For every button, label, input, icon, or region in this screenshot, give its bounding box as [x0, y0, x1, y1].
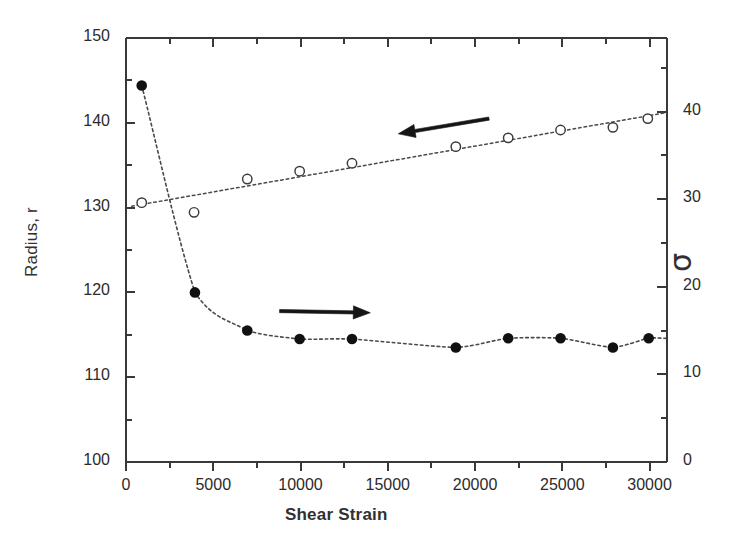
data-point-sigma: [608, 123, 617, 132]
x-axis-title: Shear Strain: [285, 505, 388, 525]
y-tick-label-right: 30: [683, 188, 731, 206]
y-tick-label-left: 130: [50, 197, 110, 215]
data-point-sigma: [451, 142, 460, 151]
data-point-sigma: [189, 208, 198, 217]
trend-line-radius: [142, 85, 666, 347]
axis-ticks: [126, 38, 667, 471]
data-point-radius: [608, 342, 619, 353]
x-tick-label: 5000: [173, 476, 253, 494]
y-tick-label-right: 20: [683, 276, 731, 294]
x-tick-label: 0: [86, 476, 166, 494]
data-point-radius: [451, 342, 462, 353]
x-tick-label: 10000: [261, 476, 341, 494]
x-tick-label: 20000: [435, 476, 515, 494]
y-tick-label-right: 0: [683, 451, 731, 469]
data-point-radius: [643, 333, 654, 344]
y-tick-label-left: 140: [50, 112, 110, 130]
data-point-radius: [136, 80, 147, 91]
data-point-sigma: [137, 198, 146, 207]
trend-line-sigma: [132, 113, 666, 207]
data-point-sigma: [556, 125, 565, 134]
arrow-to-left-axis: [280, 306, 371, 319]
y-tick-label-right: 40: [683, 101, 731, 119]
data-point-sigma: [243, 174, 252, 183]
y-tick-label-left: 150: [50, 27, 110, 45]
x-tick-label: 30000: [610, 476, 690, 494]
data-point-radius: [190, 287, 201, 298]
y-tick-label-left: 100: [50, 451, 110, 469]
data-point-radius: [555, 333, 566, 344]
axes-frame: [126, 38, 667, 462]
data-point-radius: [503, 333, 514, 344]
data-point-sigma: [503, 133, 512, 142]
y-tick-label-right: 10: [683, 363, 731, 381]
data-point-sigma: [643, 114, 652, 123]
series-markers: [136, 80, 654, 353]
y-tick-label-left: 110: [50, 366, 110, 384]
data-point-sigma: [347, 159, 356, 168]
data-point-radius: [347, 334, 358, 345]
data-point-radius: [242, 325, 253, 336]
data-point-sigma: [295, 166, 304, 175]
series-trend-lines: [132, 85, 666, 347]
x-tick-label: 15000: [348, 476, 428, 494]
y-axis-left-title: Radius, r: [22, 182, 42, 302]
data-point-radius: [294, 334, 305, 345]
arrow-to-right-axis: [398, 117, 489, 138]
y-tick-label-left: 120: [50, 281, 110, 299]
x-tick-label: 25000: [522, 476, 602, 494]
